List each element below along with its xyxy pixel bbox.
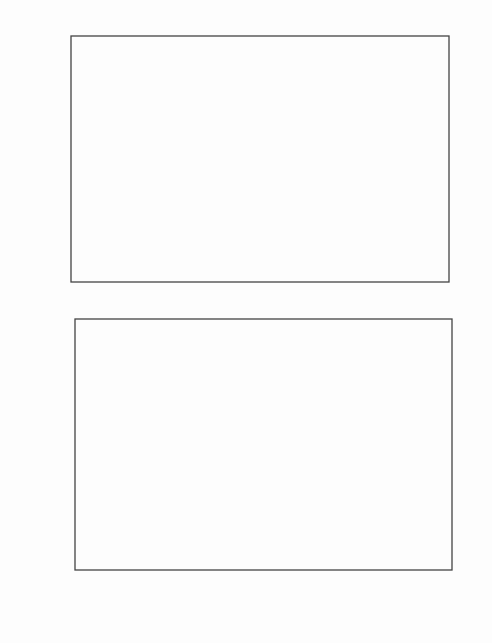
temperature-panel (75, 319, 452, 570)
population-plot-frame (71, 36, 449, 282)
temperature-plot-frame (75, 319, 452, 570)
population-panel (71, 36, 449, 282)
daisyworld-chart (0, 0, 492, 643)
